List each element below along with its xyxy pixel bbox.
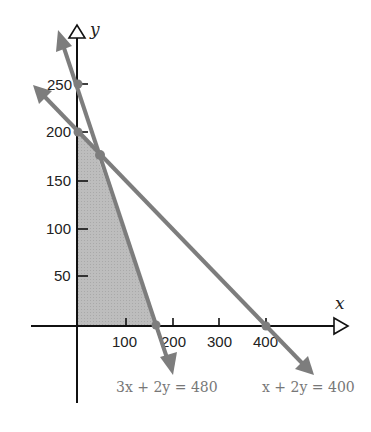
point-160-0 <box>152 321 161 330</box>
x-tick-label: 100 <box>112 333 137 350</box>
x-axis-label: x <box>335 293 345 313</box>
point-0-240 <box>74 80 83 89</box>
x-tick-label: 300 <box>207 333 232 350</box>
y-tick-label: 100 <box>46 220 71 237</box>
y-tick-label: 150 <box>46 172 71 189</box>
y-axis-label: y <box>89 19 100 39</box>
linear-programming-graph: 100 200 300 400 50 100 150 200 250 x y 3… <box>0 0 371 432</box>
y-tick-label: 200 <box>46 123 71 140</box>
point-0-200 <box>74 128 83 137</box>
arrow-head-icon <box>160 352 177 375</box>
y-tick-label: 50 <box>54 267 71 284</box>
point-400-0 <box>262 322 271 331</box>
y-tick-label: 250 <box>47 76 72 93</box>
feasible-region <box>77 132 156 326</box>
line-x-2y-400 <box>33 85 314 375</box>
y-axis-arrow-icon <box>69 25 85 38</box>
x-axis-arrow-icon <box>334 318 348 334</box>
equation-label-1: 3x + 2y = 480 <box>116 379 218 395</box>
equation-label-2: x + 2y = 400 <box>262 379 355 395</box>
point-40-180 <box>95 150 105 160</box>
arrow-head-icon <box>56 30 72 52</box>
